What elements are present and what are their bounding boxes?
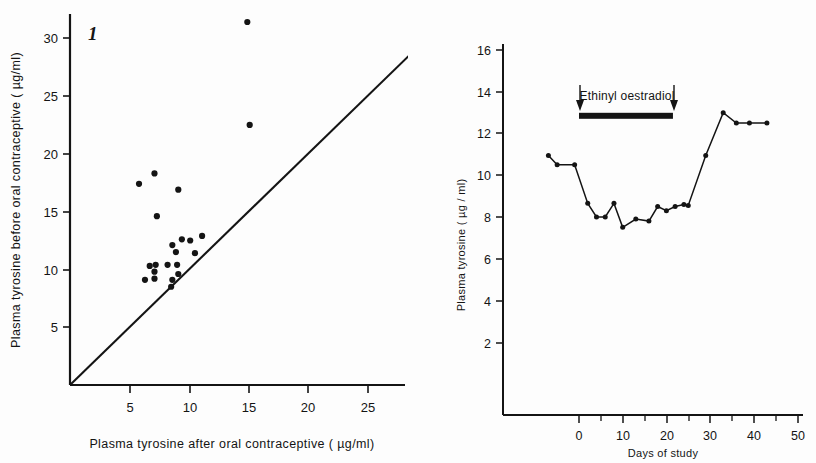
- timecourse-y-ticklabel: 6: [484, 253, 491, 267]
- line-of-identity: [70, 15, 408, 385]
- panel-number-label: 1: [88, 23, 98, 44]
- timecourse-y-ticklabel: 16: [477, 44, 491, 58]
- timecourse-marker: [611, 201, 616, 206]
- scatter-point: [153, 262, 159, 268]
- scatter-identity-line-group: [70, 15, 408, 385]
- timecourse-series-line: [548, 113, 767, 228]
- treatment-period-label: Ethinyl oestradiol: [580, 89, 675, 103]
- timecourse-y-ticklabel: 12: [477, 127, 491, 141]
- timecourse-y-ticks: [496, 50, 503, 343]
- timecourse-marker: [572, 162, 577, 167]
- timecourse-marker: [603, 214, 608, 219]
- timecourse-marker: [655, 204, 660, 209]
- scatter-y-ticklabel: 15: [44, 205, 58, 220]
- scatter-point: [169, 277, 175, 283]
- timecourse-marker: [721, 110, 726, 115]
- scatter-point: [151, 269, 157, 275]
- timecourse-xlabel: Days of study: [628, 447, 699, 459]
- scatter-x-ticklabel: 5: [126, 400, 133, 415]
- timecourse-marker: [585, 201, 590, 206]
- scatter-y-ticklabel: 20: [44, 147, 58, 162]
- scatter-point: [244, 19, 250, 25]
- timecourse-x-ticklabels: 0 10 20 30 40 50: [576, 429, 805, 443]
- timecourse-x-ticklabel: 50: [791, 429, 805, 443]
- scatter-point-group: [136, 19, 253, 290]
- scatter-point: [173, 249, 179, 255]
- timecourse-marker: [734, 121, 739, 126]
- timecourse-y-ticklabel: 4: [484, 295, 491, 309]
- scatter-point: [151, 276, 157, 282]
- timecourse-marker: [546, 153, 551, 158]
- timecourse-x-ticklabel: 0: [576, 429, 583, 443]
- scatter-y-ticklabel: 30: [44, 31, 58, 46]
- scatter-y-ticklabel: 5: [51, 320, 58, 335]
- treatment-period-bar: [579, 113, 673, 119]
- scatter-point: [154, 213, 160, 219]
- scatter-x-ticklabel: 10: [183, 400, 197, 415]
- scatter-point: [179, 236, 185, 242]
- scatter-point: [168, 284, 174, 290]
- scatter-point: [151, 170, 157, 176]
- timecourse-svg: 16 14 12 10 8 6 4 2: [408, 0, 816, 463]
- scatter-y-ticklabel: 25: [44, 89, 58, 104]
- timecourse-x-ticklabel: 40: [747, 429, 761, 443]
- scatter-point: [147, 263, 153, 269]
- timecourse-marker: [664, 208, 669, 213]
- scatter-y-ticklabel: 10: [44, 263, 58, 278]
- timecourse-marker: [620, 225, 625, 230]
- scatter-point: [174, 262, 180, 268]
- timecourse-y-ticklabel: 2: [484, 337, 491, 351]
- timecourse-marker: [594, 214, 599, 219]
- timecourse-y-ticklabel: 8: [484, 211, 491, 225]
- figure-root: 30 25 20 15 10 5 5 10 15 20 25: [0, 0, 816, 463]
- timecourse-marker-group: [546, 110, 770, 230]
- timecourse-marker: [764, 121, 769, 126]
- timecourse-marker: [681, 202, 686, 207]
- timecourse-marker: [747, 121, 752, 126]
- scatter-x-ticks: [130, 385, 368, 393]
- scatter-x-ticklabel: 20: [301, 400, 315, 415]
- scatter-point: [169, 242, 175, 248]
- scatter-x-ticklabel: 15: [242, 400, 256, 415]
- timecourse-marker: [633, 217, 638, 222]
- scatter-point: [175, 187, 181, 193]
- timecourse-ylabel: Plasma tyrosine ( µg / ml): [455, 179, 467, 312]
- scatter-ylabel: Plasma tyrosine before oral contraceptiv…: [9, 52, 23, 348]
- scatter-point: [199, 233, 205, 239]
- timecourse-marker: [686, 203, 691, 208]
- scatter-point: [247, 122, 253, 128]
- scatter-point: [142, 277, 148, 283]
- scatter-point: [192, 250, 198, 256]
- scatter-point: [187, 237, 193, 243]
- scatter-y-ticklabels: 30 25 20 15 10 5: [44, 31, 58, 335]
- timecourse-x-ticklabel: 20: [660, 429, 674, 443]
- timecourse-x-ticks: [579, 415, 798, 423]
- timecourse-marker: [646, 219, 651, 224]
- scatter-xlabel: Plasma tyrosine after oral contraceptive…: [89, 437, 374, 451]
- scatter-panel: 30 25 20 15 10 5 5 10 15 20 25: [0, 0, 408, 463]
- scatter-svg: 30 25 20 15 10 5 5 10 15 20 25: [0, 0, 408, 463]
- timecourse-marker: [555, 162, 560, 167]
- timecourse-y-ticklabel: 10: [477, 169, 491, 183]
- scatter-x-ticklabels: 5 10 15 20 25: [126, 400, 375, 415]
- scatter-point: [175, 271, 181, 277]
- timecourse-marker: [703, 153, 708, 158]
- timecourse-y-ticklabel: 14: [477, 86, 491, 100]
- scatter-point: [136, 181, 142, 187]
- scatter-x-ticklabel: 25: [361, 400, 375, 415]
- timecourse-y-ticklabels: 16 14 12 10 8 6 4 2: [477, 44, 491, 351]
- timecourse-x-ticklabel: 30: [703, 429, 717, 443]
- scatter-point: [164, 262, 170, 268]
- timecourse-x-ticklabel: 10: [616, 429, 630, 443]
- timecourse-panel: 16 14 12 10 8 6 4 2: [408, 0, 816, 463]
- timecourse-marker: [673, 204, 678, 209]
